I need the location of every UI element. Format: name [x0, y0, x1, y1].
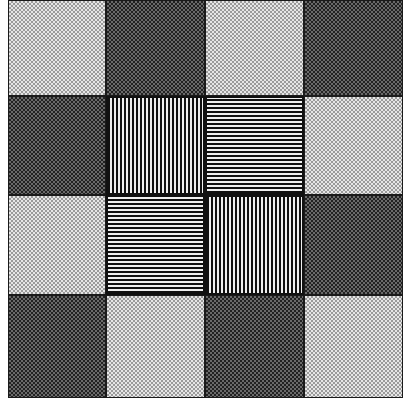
grid-cell-light-r3c3 [304, 295, 403, 398]
grid-cell-dark-r0c3 [304, 0, 403, 96]
grid-cell-dark-r2c3 [304, 195, 403, 295]
grid-cell-light-r1c3 [304, 96, 403, 195]
grid-cell-light-r3c1 [106, 295, 205, 398]
grid-cell-dark-r0c1 [106, 0, 205, 96]
grid-cell-vertical-r2c2 [205, 195, 304, 295]
grid-cell-horizontal-r2c1 [106, 195, 205, 295]
grid-cell-dark-r3c2 [205, 295, 304, 398]
grid-cell-light-r2c0 [8, 195, 106, 295]
grid-cell-dark-r1c0 [8, 96, 106, 195]
grid-cell-horizontal-r1c2 [205, 96, 304, 195]
illusion-grid [8, 0, 403, 398]
grid-cell-light-r0c0 [8, 0, 106, 96]
grid-cell-dark-r3c0 [8, 295, 106, 398]
grid-cell-light-r0c2 [205, 0, 304, 96]
grid-cell-vertical-r1c1 [106, 96, 205, 195]
